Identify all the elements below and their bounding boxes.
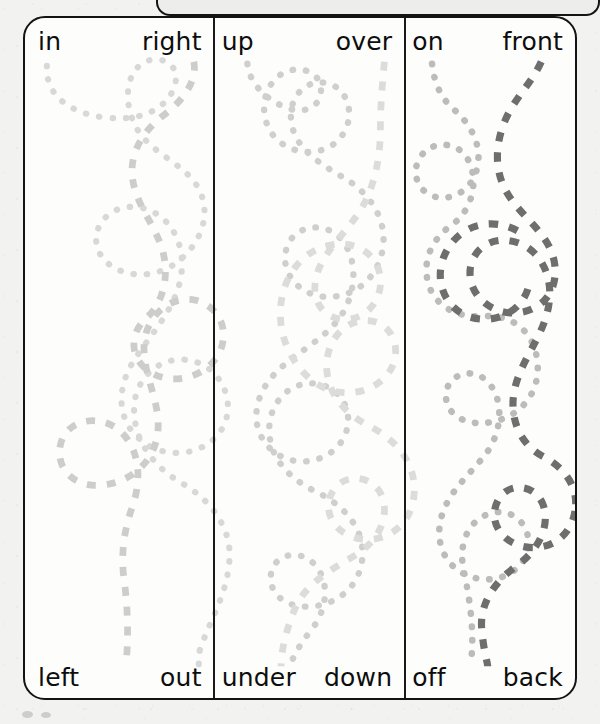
path-c2-dotted <box>247 64 383 666</box>
column-divider-2 <box>404 18 406 698</box>
maze-paths-svg <box>25 18 575 698</box>
path-c2-dashed <box>280 62 414 666</box>
column-divider-1 <box>213 18 215 698</box>
worksheet-card: in right up over on front left out under… <box>23 16 577 700</box>
previous-worksheet-box-edge <box>156 0 600 16</box>
page-smudge-2 <box>41 712 51 718</box>
page-smudge-1 <box>22 711 33 718</box>
path-c1-dotted <box>47 59 230 664</box>
